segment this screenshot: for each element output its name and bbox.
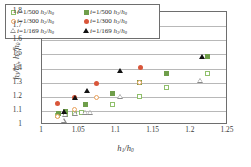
y-axis-tick-label: 1.1 bbox=[0, 106, 22, 113]
data-point bbox=[138, 65, 143, 70]
x-axis-tick-label: 1.2 bbox=[175, 126, 205, 133]
legend-label: i=1/300 h2/h0 bbox=[17, 17, 54, 25]
data-point bbox=[110, 102, 115, 107]
y-axis-tick-label: 1.5 bbox=[0, 49, 22, 56]
legend-label: i=1/500 h3/h0 bbox=[90, 8, 127, 16]
legend-row: i=1/500 h2/h0i=1/500 h3/h0 bbox=[9, 7, 155, 17]
x-axis-label: h1/h0 bbox=[0, 143, 251, 153]
legend-row: i=1/300 h2/h0i=1/300 h3/h0 bbox=[9, 17, 155, 27]
data-point bbox=[164, 71, 169, 76]
y-axis-tick-label: 1 bbox=[0, 120, 22, 127]
y-axis-tick-label: 1.2 bbox=[0, 92, 22, 99]
legend-item: i=1/500 h3/h0 bbox=[82, 8, 155, 16]
y-axis-tick-label: 1.3 bbox=[0, 78, 22, 85]
data-point bbox=[55, 101, 60, 106]
legend-item: i=1/169 h3/h0 bbox=[82, 27, 155, 35]
y-axis-tick-label: 1.8 bbox=[0, 7, 22, 14]
legend-label: i=1/500 h2/h0 bbox=[17, 8, 54, 16]
data-point bbox=[61, 109, 67, 114]
data-point bbox=[137, 94, 142, 99]
data-point bbox=[137, 80, 142, 85]
gridline-y bbox=[42, 111, 226, 112]
data-point bbox=[197, 78, 203, 83]
legend-label: i=1/169 h3/h0 bbox=[90, 27, 127, 35]
data-point bbox=[72, 111, 78, 116]
data-point bbox=[205, 71, 210, 76]
data-point bbox=[61, 118, 67, 123]
data-point bbox=[72, 95, 78, 100]
data-point bbox=[84, 88, 90, 93]
data-point bbox=[164, 85, 169, 90]
gridline-y bbox=[42, 40, 226, 41]
gridline-y bbox=[42, 69, 226, 70]
data-point bbox=[117, 68, 123, 73]
y-axis-tick-label: 1.7 bbox=[0, 21, 22, 28]
x-axis-tick-label: 1 bbox=[26, 126, 56, 133]
legend-label: i=1/169 h2/h0 bbox=[17, 27, 54, 35]
legend-row: i=1/169 h2/h0i=1/169 h3/h0 bbox=[9, 26, 155, 36]
x-axis-tick-label: 1.1 bbox=[100, 126, 130, 133]
x-axis-tick-label: 1.05 bbox=[63, 126, 93, 133]
data-point bbox=[205, 54, 210, 59]
x-axis-tick-label: 1.15 bbox=[138, 126, 168, 133]
filled-triangle-icon bbox=[82, 27, 90, 34]
y-axis-tick-label: 1.6 bbox=[0, 35, 22, 42]
legend-label: i=1/300 h3/h0 bbox=[90, 17, 127, 25]
filled-circle-icon bbox=[82, 18, 90, 25]
scatter-chart-figure: h3/h0, h2/h0 h1/h0 i=1/500 h2/h0i=1/500 … bbox=[0, 0, 251, 167]
legend: i=1/500 h2/h0i=1/500 h3/h0i=1/300 h2/h0i… bbox=[5, 4, 160, 39]
data-point bbox=[117, 94, 123, 99]
data-point bbox=[199, 54, 205, 59]
data-point bbox=[94, 81, 99, 86]
data-point bbox=[83, 102, 88, 107]
filled-square-icon bbox=[82, 8, 90, 15]
legend-item: i=1/300 h3/h0 bbox=[82, 17, 155, 25]
data-point bbox=[87, 110, 93, 115]
data-point bbox=[110, 91, 115, 96]
gridline-y bbox=[42, 97, 226, 98]
data-point bbox=[55, 114, 60, 119]
x-axis-tick-label: 1.25 bbox=[212, 126, 242, 133]
y-axis-tick-label: 1.4 bbox=[0, 64, 22, 71]
data-point bbox=[94, 95, 99, 100]
